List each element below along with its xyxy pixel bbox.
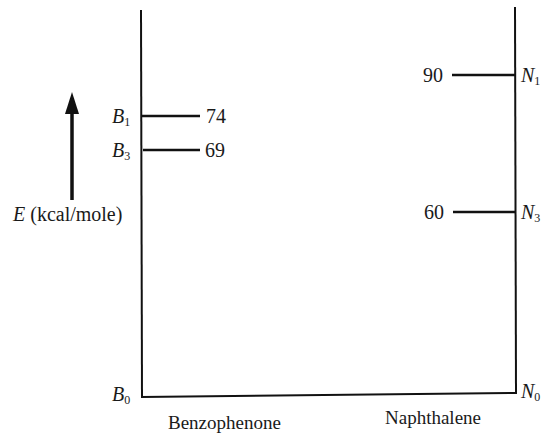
value-b3: 69 <box>205 140 225 160</box>
value-b1: 74 <box>206 106 226 126</box>
label-n0-sub: 0 <box>534 390 540 404</box>
label-b3: B3 <box>112 140 130 162</box>
energy-level-diagram: E (kcal/mole) B1 74 B3 69 B0 90 N1 60 N3… <box>0 0 559 446</box>
label-b0-sub: 0 <box>124 393 130 407</box>
label-b1: B1 <box>112 106 130 128</box>
energy-unit: (kcal/mole) <box>30 203 122 225</box>
energy-symbol: E <box>13 203 25 225</box>
energy-arrow-icon <box>65 92 79 200</box>
naphthalene-axis <box>515 7 516 394</box>
value-n3: 60 <box>424 202 444 222</box>
value-n1: 90 <box>423 65 443 85</box>
label-n1-sub: 1 <box>534 74 540 88</box>
label-n3: N3 <box>521 202 540 224</box>
label-n1: N1 <box>521 65 540 87</box>
ground-baseline <box>141 393 516 397</box>
label-b0-letter: B <box>112 383 124 405</box>
energy-axis-label: E (kcal/mole) <box>13 203 122 226</box>
label-n0-letter: N <box>521 380 534 402</box>
molecule-name-benzophenone: Benzophenone <box>168 412 281 434</box>
label-n3-letter: N <box>521 201 534 223</box>
label-b0: B0 <box>112 384 130 406</box>
label-b1-letter: B <box>112 105 124 127</box>
benzophenone-axis <box>141 10 142 397</box>
label-b3-letter: B <box>112 139 124 161</box>
label-b1-sub: 1 <box>124 115 130 129</box>
label-n3-sub: 3 <box>534 211 540 225</box>
molecule-name-naphthalene: Naphthalene <box>385 407 481 429</box>
label-b3-sub: 3 <box>124 149 130 163</box>
label-n1-letter: N <box>521 64 534 86</box>
label-n0: N0 <box>521 381 540 403</box>
